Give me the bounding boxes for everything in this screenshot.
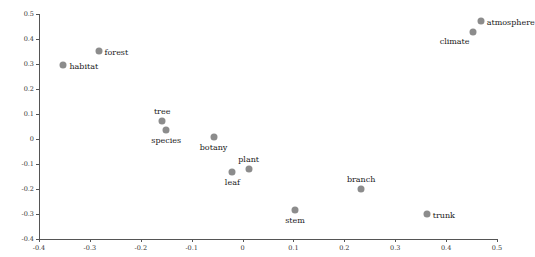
y-tick-mark	[36, 164, 39, 165]
x-axis-line	[39, 239, 497, 240]
data-point-forest[interactable]	[95, 48, 102, 55]
data-point-trunk[interactable]	[423, 210, 430, 217]
y-tick-label: 0.5	[12, 10, 34, 18]
data-point-habitat[interactable]	[60, 62, 67, 69]
data-point-label-species: species	[151, 136, 181, 145]
y-tick-label: 0.4	[12, 35, 34, 43]
data-point-branch[interactable]	[358, 186, 365, 193]
y-tick-mark	[36, 64, 39, 65]
data-point-leaf[interactable]	[229, 168, 236, 175]
data-point-label-branch: branch	[347, 175, 376, 184]
data-point-tree[interactable]	[159, 118, 166, 125]
x-tick-mark	[243, 239, 244, 242]
y-tick-mark	[36, 89, 39, 90]
data-point-label-plant: plant	[238, 155, 259, 164]
data-point-label-habitat: habitat	[69, 62, 98, 71]
y-tick-mark	[36, 214, 39, 215]
data-point-atmosphere[interactable]	[477, 18, 484, 25]
y-tick-label: 0.2	[12, 85, 34, 93]
x-tick-label: 0.3	[390, 244, 400, 252]
data-point-botany[interactable]	[210, 134, 217, 141]
y-tick-mark	[36, 39, 39, 40]
x-tick-label: 0.2	[339, 244, 349, 252]
y-tick-label: -0.2	[12, 185, 34, 193]
data-point-label-tree: tree	[154, 107, 171, 116]
x-tick-label: 0.4	[441, 244, 451, 252]
y-tick-mark	[36, 139, 39, 140]
data-point-label-stem: stem	[285, 216, 305, 225]
y-tick-label: 0.3	[12, 60, 34, 68]
x-tick-mark	[39, 239, 40, 242]
x-tick-label: 0.5	[492, 244, 502, 252]
y-tick-mark	[36, 114, 39, 115]
data-point-plant[interactable]	[245, 166, 252, 173]
data-point-label-climate: climate	[440, 37, 470, 46]
y-tick-label: -0.3	[12, 210, 34, 218]
x-tick-label: -0.1	[185, 244, 198, 252]
data-point-species[interactable]	[163, 126, 170, 133]
x-tick-mark	[90, 239, 91, 242]
x-tick-mark	[497, 239, 498, 242]
data-point-stem[interactable]	[291, 207, 298, 214]
data-point-label-trunk: trunk	[433, 210, 455, 219]
x-tick-mark	[395, 239, 396, 242]
x-tick-label: -0.3	[84, 244, 97, 252]
x-tick-label: -0.4	[33, 244, 46, 252]
x-tick-mark	[141, 239, 142, 242]
x-tick-label: 0.1	[288, 244, 298, 252]
y-tick-label: 0	[12, 135, 34, 143]
y-axis-line	[39, 14, 40, 239]
data-point-label-leaf: leaf	[225, 178, 240, 187]
data-point-label-forest: forest	[105, 48, 129, 57]
y-tick-mark	[36, 14, 39, 15]
y-tick-label: -0.1	[12, 160, 34, 168]
x-tick-label: 0	[240, 244, 244, 252]
x-tick-label: -0.2	[134, 244, 147, 252]
y-tick-label: -0.4	[12, 235, 34, 243]
x-tick-mark	[446, 239, 447, 242]
data-point-label-botany: botany	[200, 143, 228, 152]
y-tick-mark	[36, 239, 39, 240]
data-point-label-atmosphere: atmosphere	[487, 18, 535, 27]
x-tick-mark	[293, 239, 294, 242]
data-point-climate[interactable]	[469, 29, 476, 36]
x-tick-mark	[192, 239, 193, 242]
y-tick-mark	[36, 189, 39, 190]
x-tick-mark	[344, 239, 345, 242]
y-tick-label: 0.1	[12, 110, 34, 118]
